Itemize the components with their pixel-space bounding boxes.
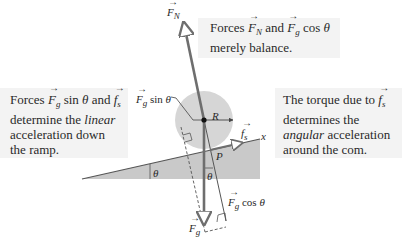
subscript: g [196,227,201,237]
text: F [287,20,295,35]
text: cos [239,196,259,208]
text: The torque due to [283,92,378,107]
text: and [88,92,113,107]
label-fn: FN [167,6,180,22]
text: determine the [10,112,84,127]
text: F [136,93,143,105]
subscript: N [174,11,180,21]
fg-vector: F [189,222,196,234]
callout-balance-line2: merely balance. [210,40,340,55]
callout-linear-line1: Forces Fg sin θ and fs [10,92,128,112]
text: and [262,20,287,35]
callout-balance-line1: Forces FN and Fg cos θ [210,20,340,40]
fn-vector: F [167,6,174,18]
text: sin [147,93,165,105]
theta: θ [259,196,264,208]
callout-linear: Forces Fg sin θ and fs determine the lin… [0,88,128,158]
fs-vector: f [241,127,244,139]
text: F [248,20,256,35]
text: acceleration [324,127,390,142]
emphasis: linear [84,112,115,127]
theta: θ [166,93,171,105]
label-contact-point: P [216,150,223,162]
label-theta-ramp: θ [153,167,158,179]
fg-vector: F [48,92,56,107]
label-fg-sin: Fg sin θ [136,93,171,109]
text: F [228,196,235,208]
label-radius: R [212,110,219,122]
fg-vector: F [287,20,295,35]
subscript: s [382,99,386,109]
text: f [114,92,118,107]
text: F [189,222,196,234]
callout-linear-line2: determine the linear [10,112,128,127]
text: f [378,92,382,107]
text: F [167,6,174,18]
center-of-mass-dot [201,117,206,122]
fn-vector: F [248,20,256,35]
callout-angular: The torque due to fs determines the angu… [275,88,402,158]
text: Forces [10,92,48,107]
text: cos [300,20,324,35]
label-x-axis: x [261,130,266,142]
fs-vector: f [114,92,118,107]
label-fg: Fg [189,222,200,238]
callout-balance: Forces FN and Fg cos θ merely balance. [198,18,340,58]
callout-angular-line3: angular acceleration [283,127,402,142]
callout-angular-line1: The torque due to fs [283,92,402,112]
label-theta-vertical: θ [207,170,212,182]
fg-vector: F [228,196,235,208]
theta: θ [323,20,329,35]
text: F [48,92,56,107]
label-fs: fs [241,127,248,143]
callout-linear-line3: acceleration down [10,127,128,142]
emphasis: angular [283,127,324,142]
text: sin [60,92,82,107]
callout-angular-line2: determines the [283,112,402,127]
text: Forces [210,20,248,35]
fg-vector: F [136,93,143,105]
callout-linear-line4: the ramp. [10,142,128,157]
label-fg-cos: Fg cos θ [228,196,265,212]
subscript: s [117,99,121,109]
callout-angular-line4: around the com. [283,142,402,157]
text: f [241,127,244,139]
subscript: s [244,132,248,142]
fs-vector: f [378,92,382,107]
fg-sin-dashed-bottom [205,227,226,232]
